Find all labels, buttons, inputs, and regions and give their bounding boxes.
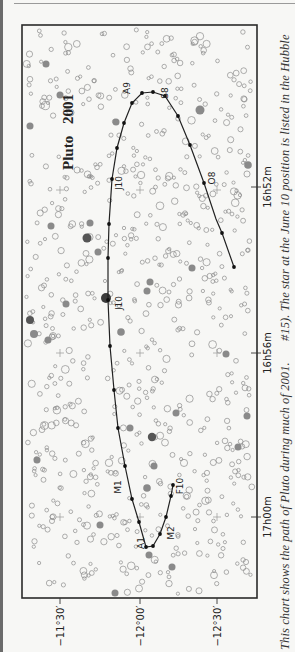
star [88, 318, 91, 321]
star [234, 358, 239, 363]
star [32, 539, 37, 544]
star [144, 529, 147, 532]
star [148, 213, 152, 217]
star [94, 568, 97, 571]
star [167, 247, 171, 251]
star [237, 82, 242, 87]
star [152, 406, 155, 409]
star [56, 394, 60, 398]
star [219, 108, 223, 112]
star [215, 581, 219, 585]
star [23, 60, 30, 67]
bright-star [189, 265, 196, 272]
star [90, 448, 94, 452]
star [127, 449, 130, 452]
star [81, 325, 87, 331]
star [225, 445, 230, 450]
star [75, 270, 79, 274]
star [159, 513, 162, 516]
star [25, 295, 28, 298]
star [41, 477, 46, 482]
star [153, 256, 158, 261]
title-word-year: 2001 [60, 94, 76, 124]
date-label: M2 [166, 526, 176, 540]
star [89, 186, 93, 190]
star [236, 562, 240, 566]
ra-tick-label: 16h56m [262, 332, 273, 374]
star [215, 92, 219, 96]
star [238, 149, 243, 154]
star [84, 84, 90, 90]
star [238, 127, 243, 132]
star [87, 505, 91, 509]
star [217, 251, 222, 256]
star [81, 572, 87, 578]
pluto-position-dots [106, 90, 236, 549]
star [185, 261, 189, 265]
star [236, 215, 239, 218]
pluto-dot [151, 544, 155, 548]
star [122, 236, 126, 240]
star [212, 519, 216, 523]
star [86, 355, 91, 360]
bright-star [45, 337, 52, 344]
star [63, 405, 67, 409]
star [42, 422, 46, 426]
star [73, 299, 77, 303]
star [135, 162, 140, 167]
star [111, 53, 115, 57]
star [171, 553, 175, 557]
star [26, 240, 29, 243]
star [145, 259, 150, 264]
star [216, 155, 220, 159]
star [64, 263, 69, 268]
star [56, 334, 60, 338]
star [217, 348, 222, 353]
star [137, 387, 141, 391]
star [244, 171, 250, 177]
star [75, 398, 81, 404]
star [241, 540, 245, 544]
star [241, 161, 244, 164]
star [183, 171, 187, 175]
star [162, 369, 166, 373]
star [64, 40, 67, 43]
star [249, 484, 255, 490]
star [158, 571, 162, 575]
star [115, 513, 119, 517]
star [55, 501, 60, 506]
pluto-dot [169, 494, 173, 498]
star [192, 143, 197, 148]
star [67, 381, 72, 386]
star [124, 169, 129, 174]
star [176, 87, 179, 90]
star [87, 97, 92, 102]
star [133, 228, 137, 232]
star [216, 59, 220, 63]
star [227, 426, 231, 430]
star [232, 502, 235, 505]
star [82, 468, 85, 471]
star [34, 473, 37, 476]
star [163, 182, 167, 186]
star [114, 234, 117, 237]
star [47, 95, 52, 100]
star [171, 198, 177, 204]
star [128, 358, 132, 362]
star [203, 259, 210, 266]
star [146, 102, 150, 106]
star [226, 373, 230, 377]
pluto-dot [151, 90, 155, 94]
star [85, 376, 89, 380]
ra-tick-label: 17h00m [262, 496, 273, 538]
star [233, 70, 239, 76]
star [43, 317, 47, 321]
star [139, 122, 143, 126]
star [58, 472, 62, 476]
star [135, 530, 139, 534]
star [37, 561, 40, 564]
star [84, 479, 88, 483]
bright-star [151, 463, 158, 470]
star [146, 30, 149, 33]
star [192, 83, 196, 87]
